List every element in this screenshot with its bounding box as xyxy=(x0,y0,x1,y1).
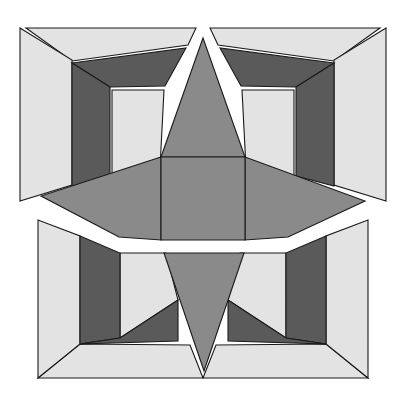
geometric-figure-canvas: Ambiguous Perspective Figure Mirror-symm… xyxy=(0,0,404,400)
central-cube-face xyxy=(161,157,245,240)
bottom-right-dark-wall xyxy=(286,236,326,344)
bottom-left-dark-wall xyxy=(80,236,120,344)
